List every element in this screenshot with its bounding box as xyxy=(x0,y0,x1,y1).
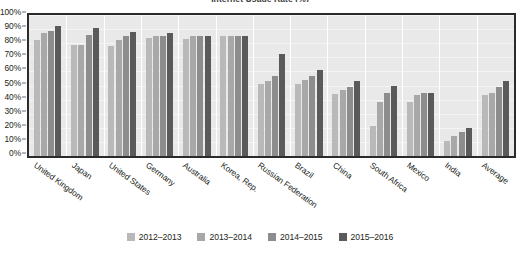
bar xyxy=(444,141,450,157)
y-axis-tick-mark xyxy=(22,40,26,41)
group-separator xyxy=(216,15,217,156)
bar xyxy=(190,36,196,156)
legend-swatch xyxy=(197,233,205,241)
x-axis-label: China xyxy=(331,160,354,181)
y-axis-tick-mark xyxy=(22,138,26,139)
y-axis-tick-label: 50% xyxy=(5,78,21,88)
bar-group xyxy=(104,15,141,156)
legend-item[interactable]: 2012–2013 xyxy=(127,232,182,242)
bar xyxy=(167,33,173,156)
bar xyxy=(146,38,152,156)
bar xyxy=(421,93,427,156)
bar xyxy=(317,70,323,156)
legend-item[interactable]: 2015–2016 xyxy=(339,232,394,242)
x-axis-label: Brazil xyxy=(293,160,315,180)
y-axis-tick-mark xyxy=(22,153,26,154)
group-separator xyxy=(104,15,105,156)
bar xyxy=(55,26,61,156)
bar xyxy=(503,81,509,156)
legend-item[interactable]: 2014–2015 xyxy=(268,232,323,242)
bar xyxy=(160,36,166,156)
bar xyxy=(459,132,465,156)
bar xyxy=(123,36,129,156)
bar xyxy=(309,76,315,156)
legend-label: 2012–2013 xyxy=(139,232,182,242)
bar xyxy=(272,76,278,156)
legend-swatch xyxy=(127,233,135,241)
bar xyxy=(48,31,54,156)
x-axis-label: Australia xyxy=(182,160,214,187)
bar xyxy=(407,102,413,156)
bar xyxy=(451,136,457,156)
bar xyxy=(130,32,136,156)
group-separator xyxy=(439,15,440,156)
bar xyxy=(391,86,397,157)
bar-group xyxy=(439,15,476,156)
legend-label: 2013–2014 xyxy=(209,232,252,242)
bar xyxy=(78,45,84,156)
bar xyxy=(153,36,159,156)
y-axis-tick-mark xyxy=(22,82,26,83)
group-separator xyxy=(66,15,67,156)
bar xyxy=(86,35,92,156)
plot-area xyxy=(27,13,516,158)
bar xyxy=(482,95,488,156)
group-separator xyxy=(141,15,142,156)
y-axis-tick-mark xyxy=(22,124,26,125)
bar xyxy=(265,81,271,156)
bar xyxy=(34,40,40,156)
bar xyxy=(489,93,495,156)
y-axis-tick-mark xyxy=(22,54,26,55)
y-axis-tick-label: 60% xyxy=(5,63,21,73)
bar xyxy=(302,80,308,156)
y-axis-tick-mark xyxy=(22,26,26,27)
x-axis-label: South Africa xyxy=(368,160,410,194)
y-axis-tick-label: 10% xyxy=(5,134,21,144)
bar xyxy=(228,36,234,156)
group-separator xyxy=(178,15,179,156)
bar-group xyxy=(216,15,253,156)
bar xyxy=(41,33,47,156)
x-axis-labels: United KingdomJapanUnited StatesGermanyA… xyxy=(27,160,516,222)
bar xyxy=(116,40,122,156)
bar-group xyxy=(327,15,364,156)
y-axis-tick-mark xyxy=(22,96,26,97)
bar xyxy=(340,90,346,156)
bar xyxy=(183,39,189,156)
bar xyxy=(332,94,338,156)
y-axis-tick-label: 80% xyxy=(5,35,21,45)
bar-group xyxy=(141,15,178,156)
x-axis-label: India xyxy=(443,160,463,179)
chart-title: Internet Usage Rate (%) xyxy=(0,0,520,2)
bar-group xyxy=(66,15,103,156)
bar xyxy=(496,87,502,156)
bar xyxy=(414,95,420,156)
y-axis-tick-label: 100% xyxy=(0,7,21,17)
x-axis-label: Germany xyxy=(144,160,177,188)
bar xyxy=(466,128,472,156)
bar-group xyxy=(290,15,327,156)
x-axis-label: Japan xyxy=(70,160,94,181)
bar xyxy=(235,36,241,156)
y-axis-tick-mark xyxy=(22,12,26,13)
bar-group xyxy=(253,15,290,156)
bar xyxy=(220,36,226,156)
y-axis-tick-mark xyxy=(22,68,26,69)
y-axis-tick-label: 90% xyxy=(5,21,21,31)
bar xyxy=(370,126,376,156)
x-axis-label: Average xyxy=(480,160,510,186)
bar xyxy=(205,36,211,156)
y-axis-tick-label: 70% xyxy=(5,49,21,59)
bar xyxy=(377,102,383,156)
chart-root: Internet Usage Rate (%) 100%90%80%70%60%… xyxy=(0,0,520,258)
y-axis-tick-mark xyxy=(22,110,26,111)
legend-item[interactable]: 2013–2014 xyxy=(197,232,252,242)
bar-group xyxy=(29,15,66,156)
bar xyxy=(354,81,360,156)
y-axis-tick-label: 0% xyxy=(9,148,21,158)
group-separator xyxy=(477,15,478,156)
bar xyxy=(428,93,434,156)
bar xyxy=(384,93,390,156)
bar-group xyxy=(477,15,514,156)
x-axis-label: Mexico xyxy=(405,160,432,183)
